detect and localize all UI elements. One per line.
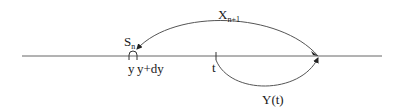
- y-t-arc: [216, 58, 318, 86]
- renewal-diagram: Sn Xn+1 y y+dy t Y(t): [0, 0, 396, 111]
- label-y-t: Y(t): [262, 92, 284, 107]
- label-s-n: Sn: [124, 34, 135, 51]
- label-t: t: [212, 60, 216, 75]
- x-n1-arc: [137, 20, 318, 56]
- label-x-n1: Xn+1: [218, 7, 240, 24]
- label-y: y: [128, 61, 135, 76]
- label-y-dy: y+dy: [137, 61, 164, 76]
